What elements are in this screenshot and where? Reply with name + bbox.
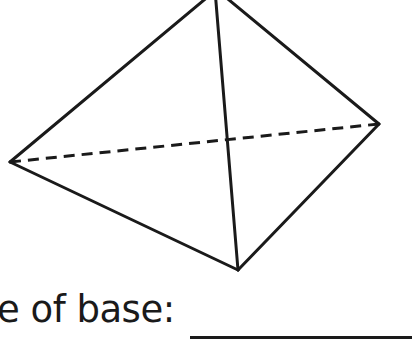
shape-of-base-label: e of base: [0, 288, 175, 332]
edge-left-vertex-to-front-bottom-vertex [10, 162, 238, 270]
edge-apex-to-front-bottom-vertex [215, 0, 238, 270]
edge-right-vertex-to-front-bottom-vertex [238, 124, 379, 270]
edge-apex-to-right-vertex [217, 0, 379, 124]
answer-blank-line[interactable] [190, 336, 412, 339]
edge-apex-to-left-vertex [10, 0, 216, 162]
hidden-base-edge-left-right [10, 124, 379, 162]
question-prompt-row: e of base: [0, 288, 412, 351]
worksheet-canvas: e of base: [0, 0, 412, 351]
